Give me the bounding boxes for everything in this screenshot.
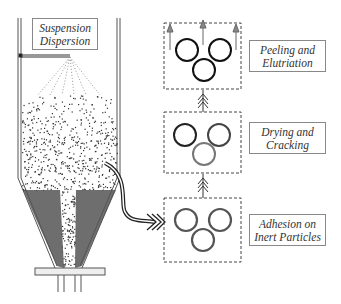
stage1-particles bbox=[175, 209, 231, 251]
label-line: Drying and bbox=[250, 126, 325, 139]
label-line: Suspension bbox=[33, 22, 97, 35]
suspension-dispersion-label: Suspension Dispersion bbox=[32, 18, 98, 50]
drying-cracking-label: Drying and Cracking bbox=[249, 122, 326, 154]
spray-nozzle bbox=[19, 54, 100, 95]
label-line: Adhesion on bbox=[250, 218, 325, 231]
vessel bbox=[18, 18, 120, 292]
adhesion-label: Adhesion on Inert Particles bbox=[249, 214, 326, 246]
annulus-bed bbox=[23, 190, 116, 268]
label-line: Dispersion bbox=[33, 35, 97, 48]
peeling-elutriation-label: Peeling and Elutriation bbox=[249, 40, 326, 72]
stage3-particles bbox=[176, 39, 231, 81]
stage2-particles bbox=[174, 124, 230, 165]
transfer-arrow-icon bbox=[105, 163, 165, 230]
label-line: Inert Particles bbox=[250, 231, 325, 244]
particle-fountain bbox=[22, 95, 118, 267]
label-line: Peeling and bbox=[250, 44, 325, 57]
label-line: Elutriation bbox=[250, 57, 325, 70]
label-line: Cracking bbox=[250, 139, 325, 152]
